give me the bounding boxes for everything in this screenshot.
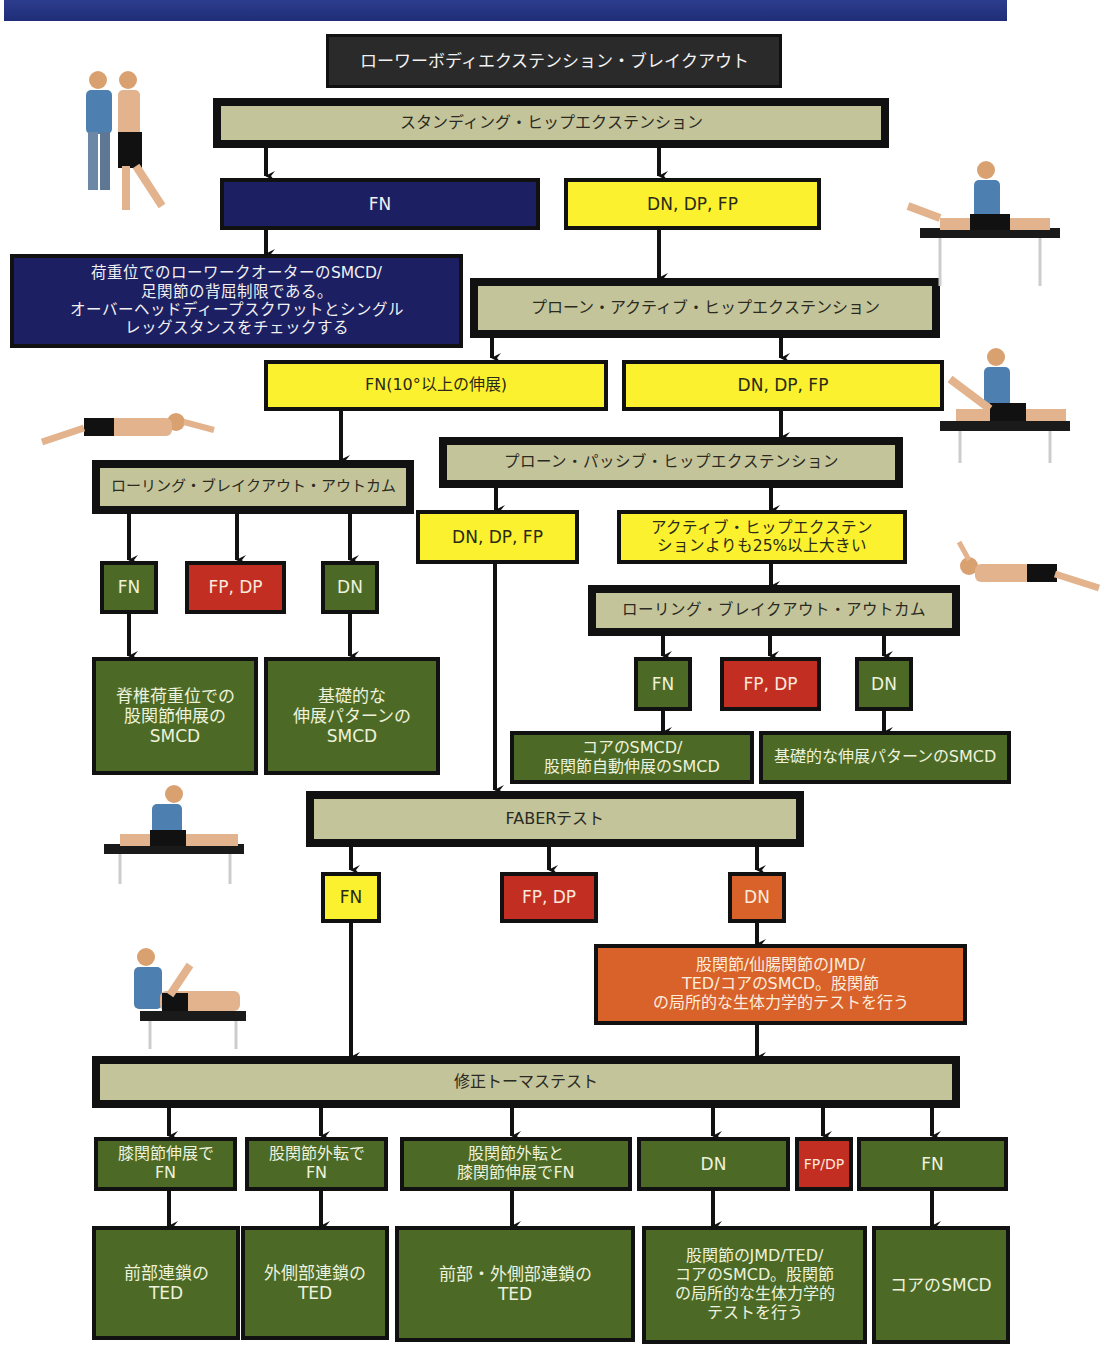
prone-active-fn-box: FN(10°以上の伸展) [264, 360, 608, 411]
rolling-right-fp-label: FP, DP [743, 674, 797, 694]
rolling-right-box: ローリング・ブレイクアウト・アウトカム [588, 585, 960, 636]
title-box: ローワーボディエクステンション・ブレイクアウト [326, 34, 782, 88]
standing-hip-extension-box: スタンディング・ヒップエクステンション [213, 98, 889, 148]
standing-dn-box: DN, DP, FP [564, 178, 821, 230]
header-banner [4, 0, 1007, 21]
rolling-left-fn-box: FN [100, 561, 158, 614]
rolling-left-label: ローリング・ブレイクアウト・アウトカム [111, 478, 396, 496]
prone-active-hip-extension-photo [900, 156, 1070, 296]
prone-active-dn-label: DN, DP, FP [738, 375, 829, 395]
thomas-result-fn-box: コアのSMCD [872, 1226, 1010, 1344]
standing-fn-result-label: 荷重位でのローワークオーターのSMCD/ 足関節の背屈制限である。 オーバーヘッ… [70, 264, 404, 337]
thomas-outcome-abduction-label: 股関節外転で FN [269, 1145, 365, 1183]
thomas-result-anterior-label: 前部連鎖の TED [124, 1263, 209, 1303]
rolling-left-fn-label: FN [118, 577, 141, 597]
thomas-result-anterior-box: 前部連鎖の TED [92, 1226, 240, 1340]
rolling-left-dn-result-label: 基礎的な 伸展パターンの SMCD [293, 686, 411, 746]
thomas-result-fn-label: コアのSMCD [890, 1275, 991, 1295]
faber-fn-box: FN [321, 872, 381, 923]
faber-fp-label: FP, DP [522, 887, 576, 907]
thomas-result-dn-label: 股関節のJMD/TED/ コアのSMCD。股関節 の局所的な生体力学的 テストを… [675, 1247, 835, 1323]
thomas-outcome-fp-box: FP/DP [795, 1137, 853, 1191]
faber-test-box: FABERテスト [306, 791, 804, 847]
prone-active-fn-label: FN(10°以上の伸展) [365, 376, 507, 395]
rolling-left-fn-result-label: 脊椎荷重位での 股関節伸展の SMCD [116, 686, 235, 746]
standing-fn-box: FN [220, 178, 540, 230]
thomas-test-photo [120, 945, 250, 1055]
standing-hip-extension-label: スタンディング・ヒップエクステンション [400, 114, 703, 133]
rolling-left-fp-box: FP, DP [185, 561, 286, 614]
thomas-outcome-dn-label: DN [701, 1154, 727, 1174]
thomas-outcome-dn-box: DN [637, 1137, 790, 1191]
rolling-left-fp-label: FP, DP [208, 577, 262, 597]
thomas-outcome-both-label: 股関節外転と 膝関節伸展でFN [457, 1145, 574, 1183]
prone-active-hip-extension-box: プローン・アクティブ・ヒップエクステンション [470, 278, 940, 338]
thomas-outcome-knee-box: 膝関節伸展で FN [94, 1137, 237, 1191]
thomas-result-lateral-box: 外側部連鎖の TED [241, 1226, 389, 1340]
thomas-outcome-fp-label: FP/DP [804, 1156, 844, 1173]
rolling-photo-left [38, 400, 218, 460]
faber-fp-box: FP, DP [500, 872, 598, 923]
thomas-result-lateral-label: 外側部連鎖の TED [264, 1263, 366, 1303]
rolling-left-dn-label: DN [337, 577, 363, 597]
prone-active-dn-box: DN, DP, FP [622, 360, 944, 411]
rolling-right-fn-result-label: コアのSMCD/ 股関節自動伸展のSMCD [544, 739, 719, 777]
faber-test-photo [100, 780, 250, 890]
rolling-right-dn-label: DN [871, 674, 897, 694]
rolling-left-dn-result-box: 基礎的な 伸展パターンの SMCD [264, 657, 440, 775]
faber-fn-label: FN [340, 887, 363, 907]
thomas-result-both-box: 前部・外側部連鎖の TED [395, 1226, 635, 1342]
prone-passive-dn-label: DN, DP, FP [452, 527, 543, 547]
rolling-left-box: ローリング・ブレイクアウト・アウトカム [92, 460, 414, 514]
thomas-test-label: 修正トーマステスト [454, 1073, 598, 1092]
thomas-outcome-both-box: 股関節外転と 膝関節伸展でFN [400, 1137, 632, 1191]
rolling-left-fn-result-box: 脊椎荷重位での 股関節伸展の SMCD [92, 657, 258, 775]
thomas-result-dn-box: 股関節のJMD/TED/ コアのSMCD。股関節 の局所的な生体力学的 テストを… [642, 1226, 867, 1344]
faber-dn-result-box: 股関節/仙腸関節のJMD/ TED/コアのSMCD。股関節 の局所的な生体力学的… [594, 944, 967, 1025]
prone-passive-dn-box: DN, DP, FP [416, 510, 579, 564]
prone-passive-greater-box: アクティブ・ヒップエクステン ションよりも25%以上大きい [617, 510, 907, 564]
prone-passive-greater-label: アクティブ・ヒップエクステン ションよりも25%以上大きい [651, 519, 873, 556]
thomas-outcome-abduction-box: 股関節外転で FN [245, 1137, 388, 1191]
standing-dn-label: DN, DP, FP [647, 194, 738, 214]
rolling-left-dn-box: DN [321, 561, 379, 614]
rolling-right-label: ローリング・ブレイクアウト・アウトカム [622, 601, 926, 619]
faber-test-label: FABERテスト [506, 810, 605, 829]
thomas-test-box: 修正トーマステスト [92, 1056, 960, 1108]
prone-passive-hip-extension-label: プローン・パッシブ・ヒップエクステンション [504, 453, 839, 471]
standing-fn-label: FN [369, 194, 392, 214]
prone-passive-hip-extension-box: プローン・パッシブ・ヒップエクステンション [439, 437, 903, 488]
rolling-right-dn-result-box: 基礎的な伸展パターンのSMCD [759, 731, 1011, 784]
rolling-photo-right [955, 540, 1105, 610]
thomas-result-both-label: 前部・外側部連鎖の TED [439, 1264, 592, 1304]
rolling-right-dn-box: DN [855, 657, 913, 711]
rolling-right-fn-result-box: コアのSMCD/ 股関節自動伸展のSMCD [510, 731, 754, 784]
thomas-outcome-knee-label: 膝関節伸展で FN [118, 1145, 214, 1183]
standing-hip-extension-photo [70, 66, 180, 226]
faber-dn-box: DN [728, 872, 786, 923]
standing-fn-result-box: 荷重位でのローワークオーターのSMCD/ 足関節の背屈制限である。 オーバーヘッ… [10, 254, 463, 348]
rolling-right-fn-box: FN [634, 657, 692, 711]
title-label: ローワーボディエクステンション・ブレイクアウト [360, 51, 749, 71]
thomas-outcome-fn-label: FN [921, 1154, 944, 1174]
prone-passive-hip-extension-photo [930, 343, 1080, 468]
prone-active-hip-extension-label: プローン・アクティブ・ヒップエクステンション [531, 299, 880, 318]
faber-dn-label: DN [744, 887, 770, 907]
rolling-right-fn-label: FN [652, 674, 675, 694]
rolling-right-fp-box: FP, DP [720, 657, 821, 711]
faber-dn-result-label: 股関節/仙腸関節のJMD/ TED/コアのSMCD。股関節 の局所的な生体力学的… [653, 956, 909, 1013]
rolling-right-dn-result-label: 基礎的な伸展パターンのSMCD [774, 748, 996, 767]
thomas-outcome-fn-box: FN [857, 1137, 1008, 1191]
